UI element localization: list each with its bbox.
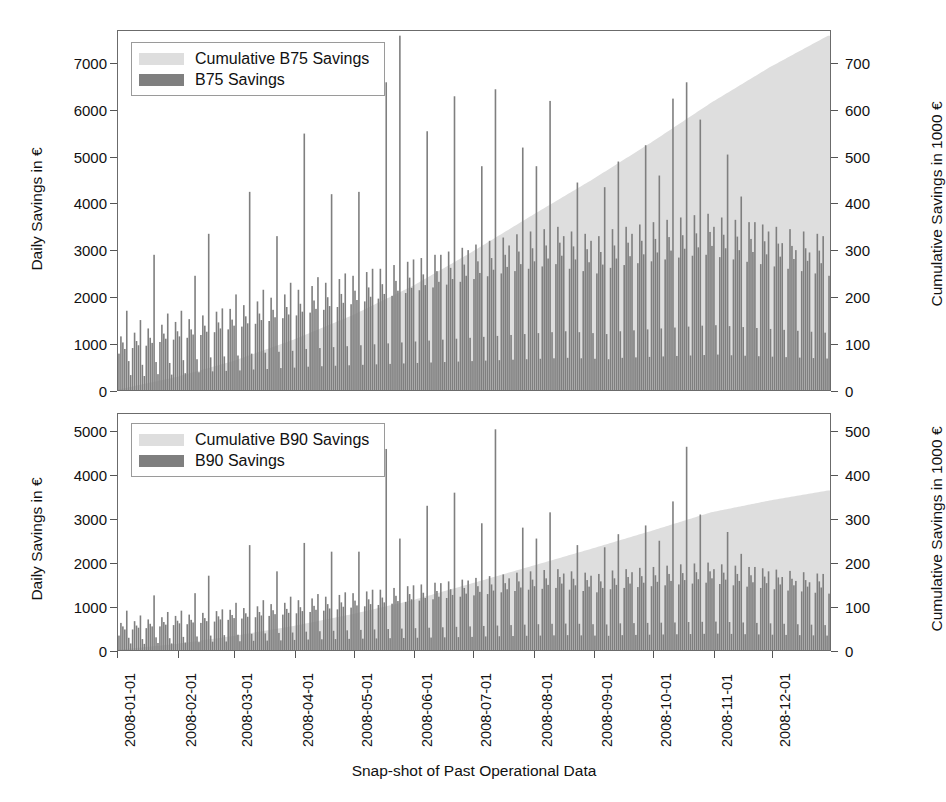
y-tick-mark <box>110 651 117 652</box>
y-tick-mark <box>110 63 117 64</box>
y-tick-label: 2000 <box>55 555 107 570</box>
x-tick-mark <box>714 651 715 658</box>
legend-swatch-b75 <box>139 74 184 86</box>
x-tick-mark <box>234 651 235 658</box>
y-tick-label: 400 <box>845 196 897 211</box>
x-tick-label: 2008-12-01 <box>778 673 793 747</box>
x-tick-label: 2008-01-01 <box>123 673 138 747</box>
y-tick-mark <box>831 431 838 432</box>
y-axis-title-right-b90: Cumulative Savings in 1000 € <box>928 389 946 669</box>
y-tick-label: 200 <box>845 290 897 305</box>
y-tick-mark <box>831 563 838 564</box>
y-tick-mark <box>110 157 117 158</box>
y-tick-mark <box>110 110 117 111</box>
x-axis-title: Snap-shot of Past Operational Data <box>117 762 831 780</box>
y-tick-mark <box>110 391 117 392</box>
y-tick-mark <box>831 297 838 298</box>
y-tick-mark <box>110 344 117 345</box>
x-tick-label: 2008-08-01 <box>540 673 555 747</box>
y-tick-label: 100 <box>845 337 897 352</box>
x-tick-label: 2008-02-01 <box>184 673 199 747</box>
y-tick-label: 1000 <box>55 337 107 352</box>
y-tick-mark <box>831 63 838 64</box>
legend-swatch-b90 <box>139 455 184 467</box>
x-tick-mark <box>534 651 535 658</box>
y-tick-label: 400 <box>845 467 897 482</box>
legend-item-cumulative-b75: Cumulative B75 Savings <box>139 48 375 69</box>
y-tick-mark <box>110 563 117 564</box>
y-tick-mark <box>831 391 838 392</box>
legend-item-cumulative-b90: Cumulative B90 Savings <box>139 429 375 450</box>
x-tick-mark <box>473 651 474 658</box>
y-tick-mark <box>831 344 838 345</box>
y-tick-label: 0 <box>55 384 107 399</box>
y-axis-title-right-b75: Cumulative Savings in 1000 € <box>928 64 946 344</box>
y-tick-mark <box>110 203 117 204</box>
y-tick-label: 0 <box>845 644 897 659</box>
y-tick-label: 200 <box>845 555 897 570</box>
x-tick-mark <box>772 651 773 658</box>
y-tick-mark <box>831 157 838 158</box>
legend-label-cumulative-b90: Cumulative B90 Savings <box>195 431 369 449</box>
panel-b90: Daily Savings in € Cumulative Savings in… <box>0 405 937 655</box>
y-tick-label: 0 <box>845 384 897 399</box>
y-tick-label: 300 <box>845 243 897 258</box>
y-axis-title-left-b75: Daily Savings in € <box>28 109 46 309</box>
y-axis-title-left-b90: Daily Savings in € <box>28 439 46 639</box>
y-tick-mark <box>831 203 838 204</box>
y-tick-mark <box>110 297 117 298</box>
y-tick-label: 0 <box>55 644 107 659</box>
legend-b90: Cumulative B90 Savings B90 Savings <box>131 423 385 477</box>
y-tick-label: 4000 <box>55 196 107 211</box>
y-tick-label: 600 <box>845 102 897 117</box>
y-tick-label: 5000 <box>55 423 107 438</box>
y-tick-mark <box>831 250 838 251</box>
y-tick-mark <box>110 250 117 251</box>
x-tick-label: 2008-05-01 <box>360 673 375 747</box>
legend-swatch-cumulative-b90 <box>139 434 184 446</box>
panel-b75: Daily Savings in € Cumulative Savings in… <box>0 0 937 400</box>
y-tick-mark <box>110 607 117 608</box>
legend-label-b90: B90 Savings <box>195 452 285 470</box>
y-tick-mark <box>831 607 838 608</box>
x-tick-label: 2008-09-01 <box>600 673 615 747</box>
x-tick-mark <box>653 651 654 658</box>
x-tick-mark <box>594 651 595 658</box>
legend-label-cumulative-b75: Cumulative B75 Savings <box>195 50 369 68</box>
y-tick-label: 7000 <box>55 55 107 70</box>
legend-b75: Cumulative B75 Savings B75 Savings <box>131 42 385 96</box>
y-tick-mark <box>831 651 838 652</box>
x-tick-label: 2008-04-01 <box>301 673 316 747</box>
x-tick-label: 2008-07-01 <box>479 673 494 747</box>
legend-item-b90: B90 Savings <box>139 450 375 471</box>
x-tick-label: 2008-06-01 <box>420 673 435 747</box>
y-tick-label: 100 <box>845 599 897 614</box>
y-tick-label: 3000 <box>55 243 107 258</box>
y-tick-label: 4000 <box>55 467 107 482</box>
y-tick-mark <box>110 519 117 520</box>
y-tick-mark <box>110 475 117 476</box>
x-tick-mark <box>354 651 355 658</box>
x-tick-label: 2008-10-01 <box>659 673 674 747</box>
x-tick-mark <box>295 651 296 658</box>
y-tick-mark <box>831 475 838 476</box>
y-tick-mark <box>831 110 838 111</box>
y-tick-mark <box>831 519 838 520</box>
x-tick-mark <box>117 651 118 658</box>
x-tick-mark <box>414 651 415 658</box>
y-tick-label: 3000 <box>55 511 107 526</box>
x-tick-label: 2008-03-01 <box>240 673 255 747</box>
y-tick-label: 500 <box>845 149 897 164</box>
y-tick-label: 300 <box>845 511 897 526</box>
legend-item-b75: B75 Savings <box>139 69 375 90</box>
y-tick-label: 5000 <box>55 149 107 164</box>
legend-swatch-cumulative-b75 <box>139 53 184 65</box>
y-tick-label: 2000 <box>55 290 107 305</box>
legend-label-b75: B75 Savings <box>195 71 285 89</box>
y-tick-label: 6000 <box>55 102 107 117</box>
x-tick-label: 2008-11-01 <box>720 674 735 747</box>
x-tick-mark <box>178 651 179 658</box>
y-tick-label: 700 <box>845 55 897 70</box>
y-tick-mark <box>110 431 117 432</box>
